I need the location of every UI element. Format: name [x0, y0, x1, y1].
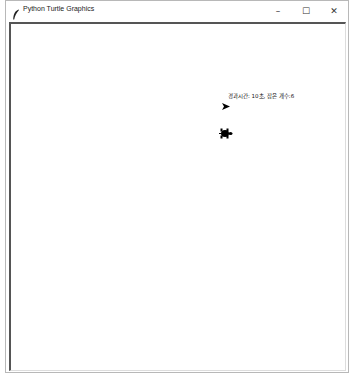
- minimize-icon: –: [276, 6, 281, 16]
- minimize-button[interactable]: –: [264, 1, 292, 21]
- close-button[interactable]: ✕: [320, 1, 348, 21]
- player-turtle-icon: [219, 124, 233, 143]
- title-bar[interactable]: Python Turtle Graphics – ☐ ✕: [6, 1, 348, 21]
- maximize-icon: ☐: [302, 6, 310, 16]
- window-title: Python Turtle Graphics: [23, 5, 94, 12]
- maximize-button[interactable]: ☐: [292, 1, 320, 21]
- turtle-canvas[interactable]: [9, 22, 346, 371]
- feather-icon: [12, 5, 20, 16]
- status-text: 경과시간: 10초, 잡은 개수:6: [228, 92, 294, 100]
- turtle-window: Python Turtle Graphics – ☐ ✕: [5, 0, 349, 373]
- close-icon: ✕: [330, 6, 338, 16]
